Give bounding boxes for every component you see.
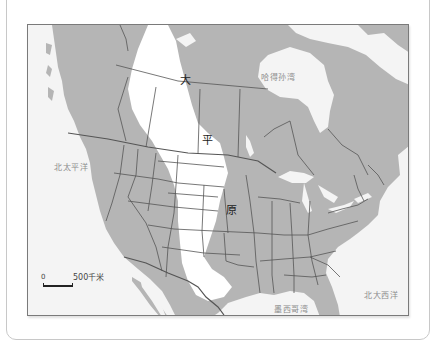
hudson-bay-label: 哈得孙湾 (261, 71, 295, 82)
north-pacific-label: 北太平洋 (54, 161, 88, 172)
scale-line (43, 283, 73, 287)
plains-char-yuan: 原 (226, 201, 237, 217)
gulf-of-mexico-label: 墨西哥湾 (274, 303, 308, 314)
plains-char-da: 大 (180, 71, 191, 87)
scale-end-label: 500千米 (73, 271, 104, 282)
north-atlantic-label: 北大西洋 (364, 289, 398, 300)
scale-bar: 0 500千米 (41, 273, 121, 303)
plains-char-ping: 平 (202, 131, 213, 147)
scale-start-label: 0 (41, 273, 45, 281)
map-frame: 哈得孙湾 北太平洋 北大西洋 墨西哥湾 大 平 原 0 500千米 (27, 24, 409, 316)
